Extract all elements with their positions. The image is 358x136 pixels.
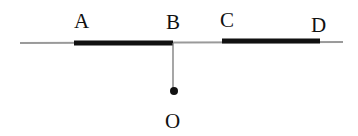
geometry-diagram: A B C D O [0, 0, 358, 136]
label-o: O [165, 109, 180, 133]
label-a: A [74, 9, 90, 33]
label-c: C [220, 8, 234, 32]
label-b: B [166, 10, 180, 34]
label-d: D [311, 13, 326, 37]
point-o [170, 87, 178, 95]
